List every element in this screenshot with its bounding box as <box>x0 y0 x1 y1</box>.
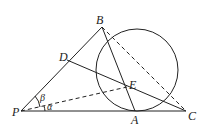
angle-alpha-arc <box>44 106 45 111</box>
label-D: D <box>58 50 68 64</box>
geometry-diagram: B D E P A C β α <box>0 0 207 132</box>
dashed-BC <box>102 27 186 111</box>
label-beta: β <box>39 92 45 103</box>
label-A: A <box>130 113 139 127</box>
label-B: B <box>96 13 104 27</box>
segment-DC <box>67 60 186 111</box>
label-P: P <box>11 105 20 119</box>
label-E: E <box>128 78 137 92</box>
label-alpha: α <box>47 101 53 112</box>
circle <box>96 29 178 111</box>
label-C: C <box>188 109 197 123</box>
segment-PB <box>21 27 102 111</box>
